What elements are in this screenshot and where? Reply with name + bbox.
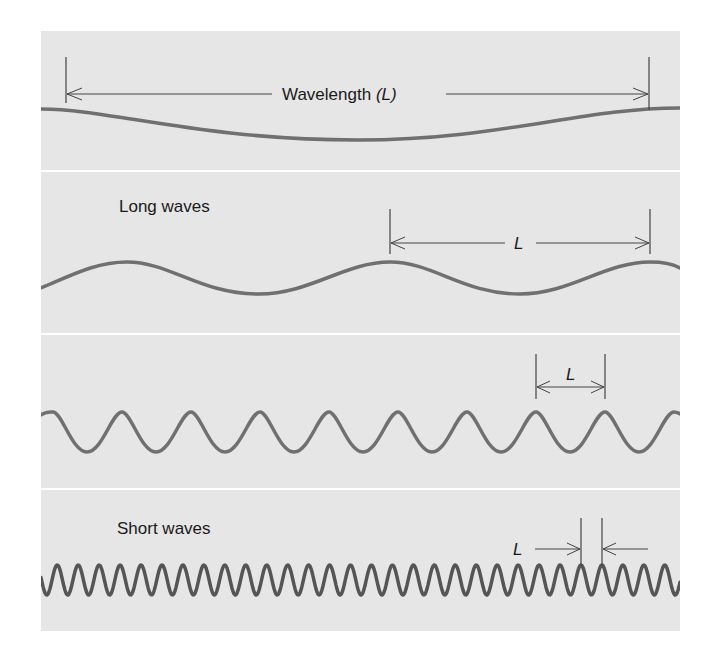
wavelength-label: Wavelength (L)	[282, 85, 397, 104]
wavelength-diagram: Wavelength (L) Long waves L L Short wave…	[0, 0, 712, 646]
wavelength-symbol: (L)	[376, 85, 397, 104]
long-waves-label: Long waves	[119, 197, 210, 216]
short-waves-label: Short waves	[117, 519, 211, 538]
long-wavelength-symbol: L	[514, 234, 523, 253]
medium-wavelength-symbol: L	[566, 365, 575, 384]
panel-background-4	[41, 490, 680, 631]
short-wavelength-symbol: L	[513, 540, 522, 559]
panel-background-3	[41, 335, 680, 488]
